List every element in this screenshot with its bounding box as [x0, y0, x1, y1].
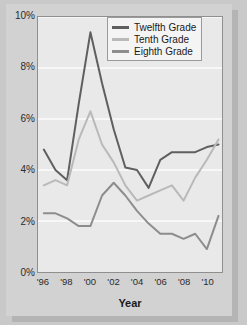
y-tick-label: 4%	[3, 165, 35, 175]
x-tick-label: '00	[78, 277, 102, 287]
x-tick-label: '98	[54, 277, 78, 287]
chart-figure: 0%2%4%6%8%10% '96'98'00'02'04'06'08'10 Y…	[0, 0, 247, 325]
y-tick-label: 6%	[3, 114, 35, 124]
y-tick-label: 8%	[3, 62, 35, 72]
x-tick-label: '02	[102, 277, 126, 287]
legend-item-twelfth-grade: Twelfth Grade	[112, 21, 196, 33]
chart-legend: Twelfth Grade Tenth Grade Eighth Grade	[107, 17, 202, 61]
legend-label-twelfth-grade: Twelfth Grade	[134, 22, 196, 33]
x-tick-label: '10	[196, 277, 220, 287]
legend-item-tenth-grade: Tenth Grade	[112, 33, 196, 45]
x-tick-label: '96	[31, 277, 55, 287]
x-tick-label: '04	[125, 277, 149, 287]
panel-shadow-bottom	[12, 316, 238, 322]
y-tick-label: 10%	[3, 11, 35, 21]
legend-swatch-tenth-grade	[112, 38, 129, 41]
legend-swatch-twelfth-grade	[112, 26, 129, 29]
legend-label-tenth-grade: Tenth Grade	[134, 34, 189, 45]
x-axis-title: Year	[37, 297, 223, 309]
x-tick-label: '06	[149, 277, 173, 287]
legend-swatch-eighth-grade	[112, 50, 129, 53]
x-axis-tick-labels: '96'98'00'02'04'06'08'10	[0, 277, 247, 291]
panel-shadow-right	[232, 10, 238, 316]
x-tick-label: '08	[172, 277, 196, 287]
y-tick-label: 2%	[3, 217, 35, 227]
legend-label-eighth-grade: Eighth Grade	[134, 46, 193, 57]
legend-item-eighth-grade: Eighth Grade	[112, 45, 196, 57]
